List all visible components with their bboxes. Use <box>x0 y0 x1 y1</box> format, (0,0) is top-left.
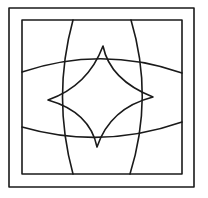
vertical-lens-right-arc <box>130 20 142 174</box>
horizontal-lens-top-arc <box>22 59 182 73</box>
inner-square <box>22 20 182 174</box>
outer-square <box>9 8 194 187</box>
geometric-diagram <box>0 0 208 198</box>
vertical-lens-left-arc <box>63 20 74 174</box>
